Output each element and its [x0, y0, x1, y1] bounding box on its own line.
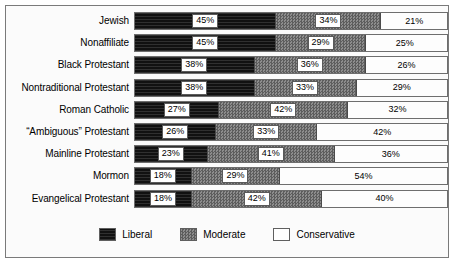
category-label: Nontraditional Protestant [6, 82, 134, 94]
segment-value-label: 34% [315, 14, 341, 28]
chart-row: Mainline Protestant23%41%36% [6, 145, 448, 163]
chart-legend: LiberalModerateConservative [6, 228, 448, 241]
segment-value-label: 42% [244, 192, 270, 206]
bar-segment-moderate: 29% [275, 35, 365, 51]
bar-segment-moderate: 36% [254, 57, 366, 73]
chart-row: Black Protestant38%36%26% [6, 56, 448, 74]
chart-row: Evangelical Protestant18%42%40% [6, 190, 448, 208]
segment-value-label: 29% [393, 82, 411, 93]
bar-segment-conservative: 25% [366, 35, 444, 51]
bar-segment-moderate: 34% [275, 13, 381, 29]
stacked-bar: 18%29%54% [134, 167, 448, 185]
segment-value-label: 45% [192, 36, 218, 50]
segment-value-label: 26% [162, 125, 188, 139]
bar-segment-liberal: 18% [135, 168, 191, 184]
bar-segment-moderate: 29% [191, 168, 281, 184]
segment-value-label: 41% [258, 147, 284, 161]
segment-value-label: 36% [297, 58, 323, 72]
bar-segment-liberal: 26% [135, 124, 215, 140]
bar-segment-moderate: 33% [215, 124, 317, 140]
stacked-bar: 27%42%32% [134, 101, 448, 119]
stacked-bar: 38%36%26% [134, 56, 448, 74]
legend-label: Moderate [203, 229, 245, 241]
segment-value-label: 45% [192, 14, 218, 28]
segment-value-label: 27% [164, 103, 190, 117]
category-label: Black Protestant [6, 59, 134, 71]
bar-segment-liberal: 23% [135, 146, 207, 162]
category-label: Roman Catholic [6, 104, 134, 116]
stacked-bar: 45%34%21% [134, 12, 448, 30]
bar-segment-moderate: 42% [191, 191, 322, 207]
segment-value-label: 25% [396, 38, 414, 49]
segment-value-label: 36% [382, 149, 400, 160]
stacked-bar: 26%33%42% [134, 123, 448, 141]
legend-swatch-icon [180, 228, 197, 241]
segment-value-label: 29% [308, 36, 334, 50]
category-label: Evangelical Protestant [6, 193, 134, 205]
segment-value-label: 38% [181, 58, 207, 72]
segment-value-label: 42% [373, 127, 391, 138]
legend-item: Liberal [99, 228, 152, 241]
stacked-bar-plot-area: Jewish45%34%21%Nonaffiliate45%29%25%Blac… [6, 6, 448, 257]
category-label: Nonaffiliate [6, 37, 134, 49]
segment-value-label: 33% [253, 125, 279, 139]
legend-swatch-icon [273, 228, 290, 241]
segment-value-label: 54% [355, 171, 373, 182]
legend-label: Conservative [296, 229, 354, 241]
bar-segment-liberal: 38% [135, 57, 254, 73]
legend-label: Liberal [122, 229, 152, 241]
bar-segment-conservative: 54% [280, 168, 447, 184]
segment-value-label: 23% [158, 147, 184, 161]
chart-row: Roman Catholic27%42%32% [6, 101, 448, 119]
bar-segment-moderate: 42% [218, 102, 348, 118]
category-label: “Ambiguous” Protestant [6, 126, 134, 138]
stacked-bar: 18%42%40% [134, 190, 448, 208]
segment-value-label: 32% [389, 104, 407, 115]
segment-value-label: 38% [181, 81, 207, 95]
bar-segment-conservative: 26% [366, 57, 447, 73]
category-label: Jewish [6, 15, 134, 27]
stacked-bar: 23%41%36% [134, 145, 448, 163]
segment-value-label: 18% [150, 169, 176, 183]
chart-row: “Ambiguous” Protestant26%33%42% [6, 123, 448, 141]
category-label: Mainline Protestant [6, 148, 134, 160]
bar-segment-liberal: 45% [135, 35, 275, 51]
legend-item: Moderate [180, 228, 245, 241]
bar-segment-moderate: 41% [207, 146, 335, 162]
bar-segment-conservative: 29% [357, 80, 447, 96]
segment-value-label: 33% [292, 81, 318, 95]
chart-frame: Jewish45%34%21%Nonaffiliate45%29%25%Blac… [5, 5, 449, 258]
bar-segment-conservative: 40% [322, 191, 447, 207]
legend-item: Conservative [273, 228, 354, 241]
chart-row: Jewish45%34%21% [6, 12, 448, 30]
bar-segment-conservative: 36% [335, 146, 447, 162]
chart-row: Mormon18%29%54% [6, 167, 448, 185]
chart-row: Nonaffiliate45%29%25% [6, 34, 448, 52]
bar-segment-liberal: 45% [135, 13, 275, 29]
segment-value-label: 42% [270, 103, 296, 117]
stacked-bar: 38%33%29% [134, 79, 448, 97]
chart-row: Nontraditional Protestant38%33%29% [6, 79, 448, 97]
segment-value-label: 18% [150, 192, 176, 206]
segment-value-label: 40% [376, 193, 394, 204]
bar-segment-conservative: 42% [317, 124, 447, 140]
bar-segment-conservative: 21% [381, 13, 447, 29]
bar-segment-liberal: 18% [135, 191, 191, 207]
legend-swatch-icon [99, 228, 116, 241]
segment-value-label: 29% [222, 169, 248, 183]
stacked-bar: 45%29%25% [134, 34, 448, 52]
bar-segment-liberal: 27% [135, 102, 218, 118]
segment-value-label: 26% [397, 60, 415, 71]
bar-segment-liberal: 38% [135, 80, 254, 96]
bar-segment-conservative: 32% [348, 102, 447, 118]
category-label: Mormon [6, 170, 134, 182]
bar-segment-moderate: 33% [254, 80, 357, 96]
segment-value-label: 21% [405, 16, 423, 27]
